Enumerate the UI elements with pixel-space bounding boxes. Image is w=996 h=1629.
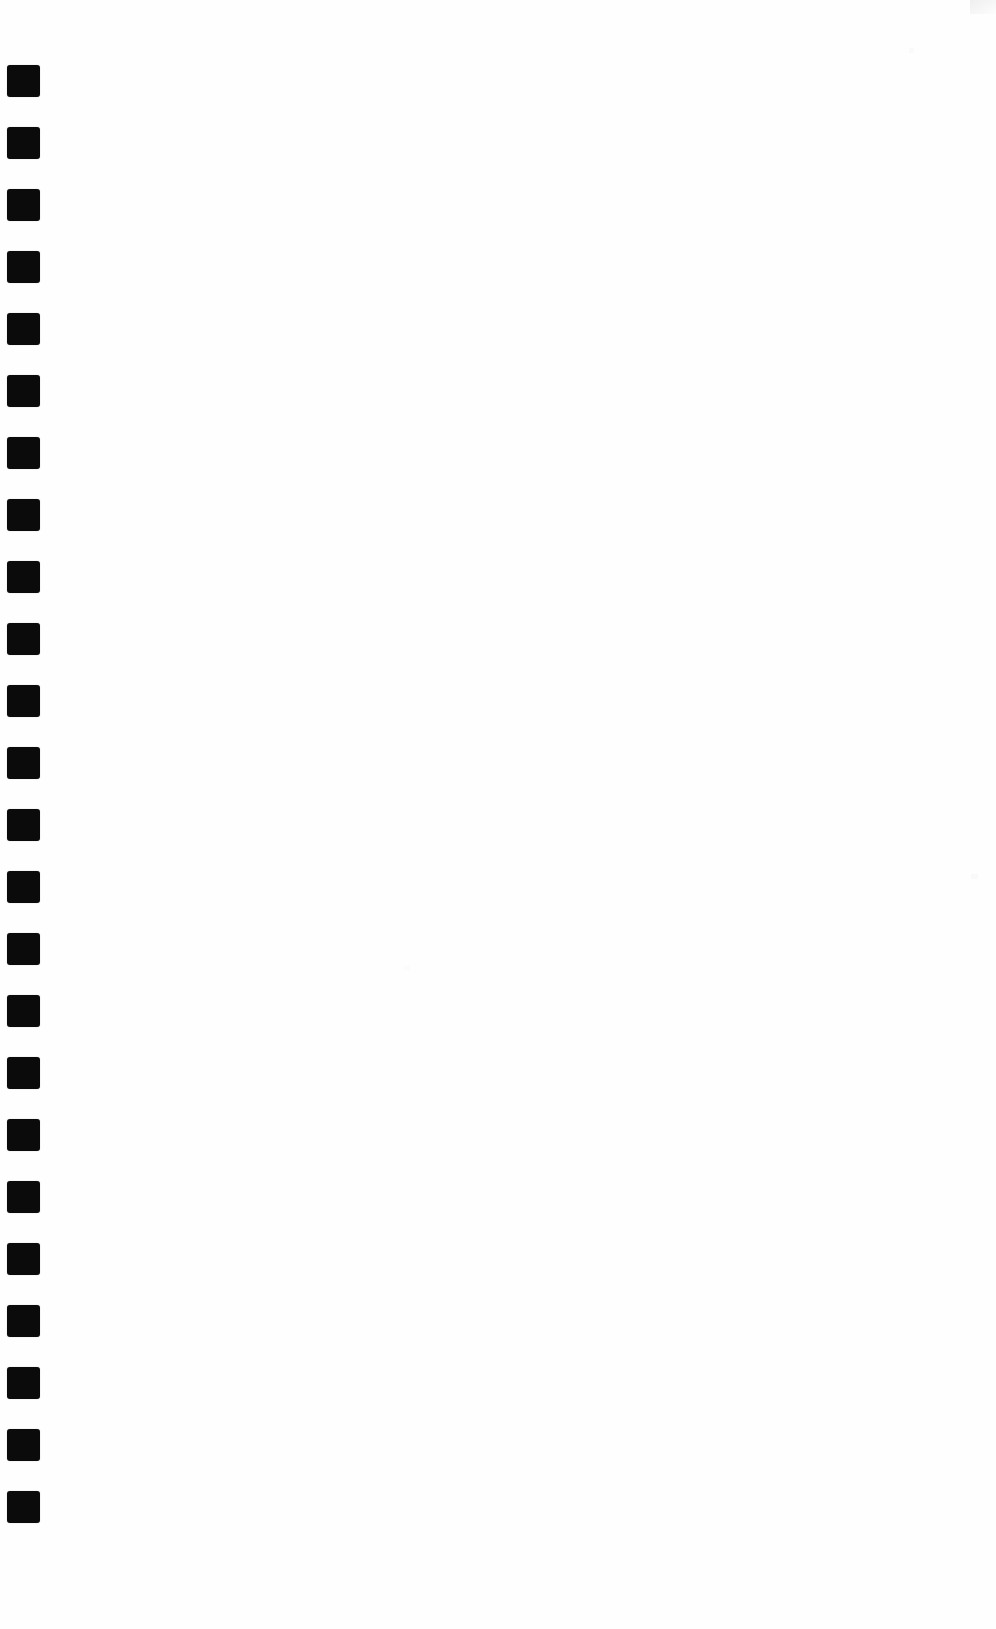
page-body-area [60, 0, 996, 1629]
margin-marker-square [7, 1429, 40, 1461]
margin-marker-square [7, 933, 40, 965]
margin-marker-square [7, 995, 40, 1027]
margin-marker-square [7, 437, 40, 469]
margin-marker-square [7, 1119, 40, 1151]
margin-marker-square [7, 189, 40, 221]
margin-marker-square [7, 313, 40, 345]
margin-marker-square [7, 65, 40, 97]
margin-marker-square [7, 685, 40, 717]
margin-marker-square [7, 871, 40, 903]
margin-marker-square [7, 1057, 40, 1089]
margin-marker-square [7, 375, 40, 407]
margin-marker-square [7, 1367, 40, 1399]
margin-marker-square [7, 809, 40, 841]
margin-marker-square [7, 561, 40, 593]
margin-marker-square [7, 747, 40, 779]
margin-marker-square [7, 1243, 40, 1275]
margin-marker-square [7, 127, 40, 159]
margin-marker-square [7, 1491, 40, 1523]
margin-marker-square [7, 251, 40, 283]
scanned-page [0, 0, 996, 1629]
margin-marker-square [7, 1305, 40, 1337]
margin-marker-square [7, 623, 40, 655]
left-margin-marker-strip [0, 0, 60, 1629]
margin-marker-square [7, 1181, 40, 1213]
margin-marker-square [7, 499, 40, 531]
